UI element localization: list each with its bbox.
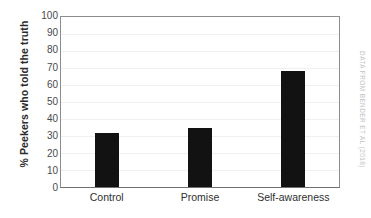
- y-tick-label: 90: [47, 28, 58, 38]
- x-tick-label: Control: [60, 191, 153, 203]
- y-tick-label: 0: [52, 183, 58, 193]
- y-axis-tick-labels: 0102030405060708090100: [30, 16, 58, 188]
- y-tick-label: 70: [47, 63, 58, 73]
- y-tick-label: 10: [47, 166, 58, 176]
- bar: [95, 133, 119, 187]
- bar-slot: [61, 17, 154, 187]
- y-tick-label: 30: [47, 131, 58, 141]
- plot-area: [60, 16, 340, 188]
- bar-series: [61, 17, 339, 187]
- y-tick-label: 50: [47, 97, 58, 107]
- x-tick-label: Promise: [153, 191, 246, 203]
- y-tick-label: 80: [47, 45, 58, 55]
- source-credit-text: DATA FROM BENDER ET AL (2018): [359, 51, 366, 168]
- y-axis-title-text: % Peekers who told the truth: [18, 21, 30, 168]
- bar-slot: [154, 17, 247, 187]
- bar-chart-figure: % Peekers who told the truth 01020304050…: [0, 0, 371, 218]
- bar: [188, 128, 212, 188]
- x-tick-label: Self-awareness: [247, 191, 340, 203]
- bar: [281, 71, 305, 187]
- y-tick-label: 40: [47, 114, 58, 124]
- x-axis-tick-labels: ControlPromiseSelf-awareness: [60, 191, 340, 211]
- y-tick-label: 60: [47, 80, 58, 90]
- source-credit: DATA FROM BENDER ET AL (2018): [354, 0, 370, 218]
- y-tick-label: 20: [47, 149, 58, 159]
- y-tick-label: 100: [41, 11, 58, 21]
- bar-slot: [246, 17, 339, 187]
